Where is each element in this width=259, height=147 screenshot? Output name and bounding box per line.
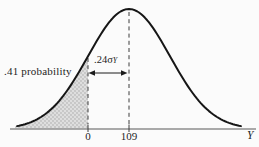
tick-label-mean: 109 [121,130,138,142]
axis-label-y: Y [247,129,253,141]
arrowhead-right-icon [121,70,128,75]
distance-label: .24σY [94,54,117,65]
distance-label-subscript: Y [113,56,117,65]
normal-distribution-figure: .41 probability .24σY 0 109 Y [0,0,259,147]
arrowhead-left-icon [89,70,96,75]
distance-label-main: .24σ [94,54,113,65]
probability-label: .41 probability [4,65,72,77]
tick-label-zero: 0 [85,130,91,142]
